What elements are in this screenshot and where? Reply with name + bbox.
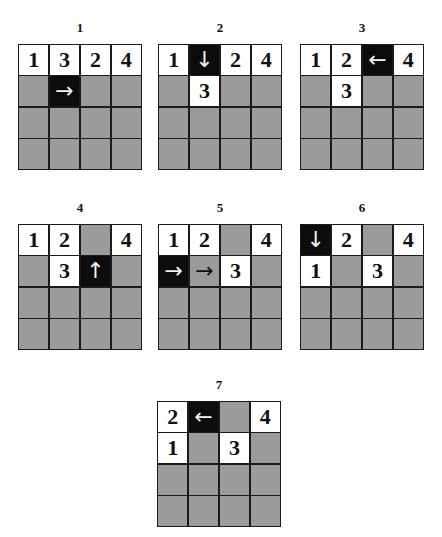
empty-cell	[19, 76, 48, 106]
empty-cell	[252, 76, 281, 106]
empty-cell	[221, 225, 250, 255]
empty-cell	[251, 496, 280, 526]
empty-cell	[50, 288, 79, 318]
empty-cell	[220, 465, 249, 495]
numbered-cell: 2	[221, 45, 250, 75]
arrow-left-icon: ←	[194, 406, 212, 428]
empty-cell	[332, 319, 361, 349]
empty-cell	[112, 256, 141, 286]
empty-cell	[220, 496, 249, 526]
numbered-cell: 4	[252, 225, 281, 255]
numbered-cell: 1	[159, 225, 188, 255]
numbered-cell: 2	[332, 225, 361, 255]
empty-cell	[394, 256, 423, 286]
empty-cell	[81, 319, 110, 349]
grid-4x4: 12←43	[300, 44, 424, 170]
empty-cell	[190, 108, 219, 138]
step-label: 7	[157, 377, 281, 393]
empty-cell	[363, 76, 392, 106]
empty-cell	[363, 225, 392, 255]
empty-cell	[252, 288, 281, 318]
empty-cell	[112, 108, 141, 138]
grid-4x4: 1↓243	[158, 44, 282, 170]
numbered-cell: 4	[251, 402, 280, 432]
empty-cell	[158, 496, 187, 526]
empty-cell	[50, 139, 79, 169]
numbered-cell: 3	[190, 76, 219, 106]
arrow-down-icon: ↓	[306, 229, 324, 251]
empty-cell	[221, 108, 250, 138]
empty-cell	[363, 139, 392, 169]
numbered-cell: 2	[158, 402, 187, 432]
empty-cell	[50, 108, 79, 138]
active-cell: →	[159, 256, 188, 286]
empty-cell	[221, 76, 250, 106]
empty-cell	[332, 108, 361, 138]
step-panel-6: 6↓2413	[300, 200, 426, 352]
empty-cell	[301, 319, 330, 349]
numbered-cell: 2	[81, 45, 110, 75]
step-label: 6	[300, 200, 424, 216]
arrow-left-icon: ←	[368, 49, 386, 71]
empty-cell	[190, 288, 219, 318]
empty-cell	[251, 433, 280, 463]
grid-4x4: 2←413	[157, 401, 281, 527]
empty-cell	[252, 139, 281, 169]
active-cell: ↑	[81, 256, 110, 286]
empty-cell	[159, 139, 188, 169]
step-panel-7: 72←413	[157, 377, 283, 529]
numbered-cell: 3	[50, 256, 79, 286]
empty-cell	[252, 108, 281, 138]
arrow-right-icon: →	[164, 260, 182, 282]
empty-cell	[363, 288, 392, 318]
empty-cell	[252, 256, 281, 286]
empty-cell	[301, 288, 330, 318]
empty-cell	[189, 465, 218, 495]
empty-cell	[81, 139, 110, 169]
empty-cell	[81, 76, 110, 106]
active-cell: ↓	[190, 45, 219, 75]
empty-cell	[159, 288, 188, 318]
empty-cell	[190, 139, 219, 169]
step-panel-2: 21↓243	[158, 20, 284, 172]
empty-cell	[332, 139, 361, 169]
grid-4x4: ↓2413	[300, 224, 424, 350]
step-label: 1	[18, 20, 142, 36]
empty-cell	[159, 319, 188, 349]
active-cell: ↓	[301, 225, 330, 255]
empty-cell	[301, 139, 330, 169]
empty-cell	[363, 108, 392, 138]
arrow-up-icon: ↑	[86, 260, 104, 282]
empty-cell	[220, 402, 249, 432]
numbered-cell: 1	[159, 45, 188, 75]
empty-cell	[112, 139, 141, 169]
empty-cell	[332, 256, 361, 286]
grid-4x4: 124→→3	[158, 224, 282, 350]
step-panel-3: 312←43	[300, 20, 426, 172]
empty-cell	[301, 108, 330, 138]
empty-cell	[363, 319, 392, 349]
step-panel-1: 11324→	[18, 20, 144, 172]
numbered-cell: 4	[252, 45, 281, 75]
empty-cell	[159, 76, 188, 106]
empty-cell	[19, 319, 48, 349]
numbered-cell: 4	[394, 225, 423, 255]
numbered-cell: 1	[19, 225, 48, 255]
numbered-cell: 3	[220, 433, 249, 463]
numbered-cell: 1	[19, 45, 48, 75]
numbered-cell: 3	[332, 76, 361, 106]
step-label: 3	[300, 20, 424, 36]
empty-cell	[158, 465, 187, 495]
empty-cell	[394, 319, 423, 349]
numbered-cell: 3	[221, 256, 250, 286]
empty-cell	[394, 139, 423, 169]
empty-cell	[189, 496, 218, 526]
grid-4x4: 1324→	[18, 44, 142, 170]
empty-cell	[19, 256, 48, 286]
numbered-cell: 2	[332, 45, 361, 75]
numbered-cell: 4	[394, 45, 423, 75]
grid-4x4: 1243↑	[18, 224, 142, 350]
empty-cell	[189, 433, 218, 463]
empty-cell	[112, 288, 141, 318]
active-cell: ←	[363, 45, 392, 75]
